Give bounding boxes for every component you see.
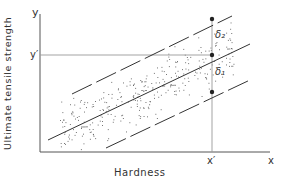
delta-1-label: δ₁ [215, 67, 225, 77]
delta-2-label: δ₂ [215, 30, 225, 40]
x-prime-label: x′ [207, 156, 215, 166]
y-prime-label: y′ [30, 50, 38, 60]
x-axis-end-label: x [268, 156, 274, 166]
lower-limit-line [106, 80, 250, 148]
diagram-canvas [0, 0, 288, 187]
upper-point [210, 17, 214, 21]
lower-point [210, 90, 214, 94]
y-axis-end-label: y [32, 7, 39, 18]
y-axis-title: Ultimate tensile strength [2, 17, 13, 150]
regression-line [48, 44, 250, 140]
x-axis-title: Hardness [114, 168, 166, 178]
center-point [210, 53, 214, 57]
scatter-points [60, 23, 234, 151]
